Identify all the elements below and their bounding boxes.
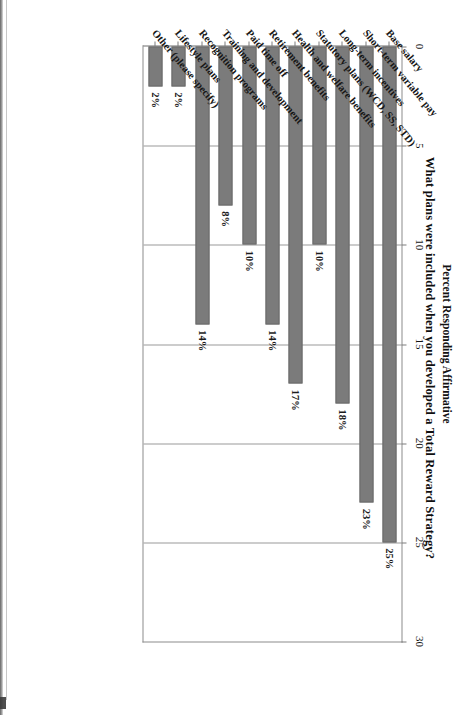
value-axis-tick-label: 30	[413, 636, 425, 647]
bar-data-label: 14%	[196, 330, 207, 351]
category-label: Short-term variable pay	[360, 27, 368, 34]
value-axis-tick-label: 10	[413, 239, 425, 250]
value-axis-tick	[401, 542, 406, 543]
bar-data-label: 14%	[267, 330, 278, 351]
value-axis-tick	[401, 244, 406, 245]
value-axis-tick-label: 20	[413, 437, 425, 448]
category-tick	[201, 41, 202, 46]
category-tick	[271, 41, 272, 46]
bar-data-label: 23%	[360, 508, 371, 529]
category-tick	[365, 41, 366, 46]
value-axis-title: Percent Responding Affirmative	[439, 45, 452, 642]
category-label: Long-term incentives	[337, 27, 345, 34]
value-axis-tick-label: 0	[413, 43, 425, 49]
bar-data-label: 2%	[173, 92, 184, 108]
value-axis-tick	[401, 145, 406, 146]
category-label: Other (please specify)	[149, 27, 157, 34]
category-tick	[248, 41, 249, 46]
category-tick	[318, 41, 319, 46]
category-label: Paid time off	[243, 27, 251, 34]
category-label: Recognition programs	[196, 27, 204, 34]
bar-data-label: 17%	[290, 389, 301, 410]
bar	[288, 46, 302, 383]
category-tick	[177, 41, 178, 46]
value-axis-tick-label: 25	[413, 536, 425, 547]
category-label: Base salary	[384, 27, 392, 34]
bar	[148, 46, 162, 86]
bar-chart-figure: What plans were included when you develo…	[0, 0, 460, 715]
value-axis-tick-label: 5	[413, 142, 425, 148]
bar-data-label: 10%	[243, 250, 254, 271]
value-axis-tick-label: 15	[413, 338, 425, 349]
bar-data-label: 10%	[313, 250, 324, 271]
gridline	[143, 542, 401, 543]
category-tick	[154, 41, 155, 46]
value-axis-tick	[401, 641, 406, 642]
bar-data-label: 18%	[337, 409, 348, 430]
category-label: Lifestyle plans	[173, 27, 181, 34]
plot-area: 05101520253025%Base salary23%Short-term …	[142, 45, 402, 642]
bar-data-label: 8%	[220, 211, 231, 227]
rotated-scanned-page: What plans were included when you develo…	[0, 0, 460, 715]
category-label: Training and development	[220, 27, 228, 34]
value-axis-tick	[401, 344, 406, 345]
category-tick	[224, 41, 225, 46]
category-label: Retirement benefits	[267, 27, 275, 34]
category-label: Health and welfare benefits	[290, 27, 298, 34]
category-label: Statutory plans (WCD, SS, STD)	[313, 27, 321, 34]
bar-data-label: 2%	[149, 92, 160, 108]
bar-data-label: 25%	[384, 548, 395, 569]
value-axis-tick	[401, 443, 406, 444]
